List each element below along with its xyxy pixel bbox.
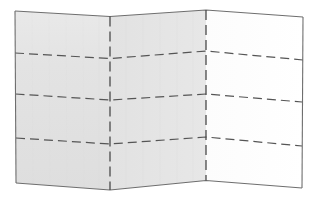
panel-right — [206, 10, 303, 188]
figure-canvas — [0, 0, 315, 200]
folded-panel-illustration — [0, 0, 315, 200]
panel-group — [15, 10, 303, 190]
panel-left — [15, 11, 110, 190]
panel-middle — [110, 10, 206, 190]
